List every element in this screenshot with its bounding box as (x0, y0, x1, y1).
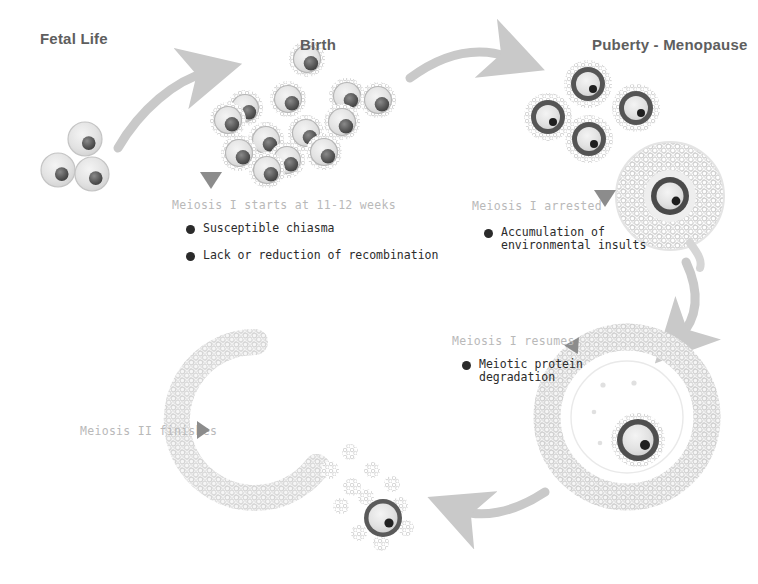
phase-label-meiosis-i-starts: Meiosis I starts at 11-12 weeks (172, 198, 396, 212)
bullet-susceptible-chiasma: Susceptible chiasma (186, 222, 335, 235)
bullet-lack-or-reduction-of-recombination: Lack or reduction of recombination (186, 249, 438, 262)
bullet-meiotic-protein-degradation: Meiotic protein degradation (462, 358, 583, 383)
arrow-fetal-to-birth (118, 72, 208, 148)
primordial-follicle-spiky (306, 134, 342, 170)
primordial-follicle (41, 153, 75, 187)
ruptured-follicle-cumulus-oocyte (177, 342, 414, 551)
arrow-puberty-to-graafian (679, 262, 695, 338)
primordial-follicle-spiky (324, 104, 360, 140)
arrow-birth-to-puberty (410, 52, 512, 78)
bullet-dot-icon (186, 225, 195, 234)
triangle-down-icon-meiosis-i-starts (200, 172, 222, 189)
primordial-follicle-spiky (270, 81, 306, 117)
bullet-label: Meiotic protein degradation (479, 358, 583, 383)
bullet-label: Lack or reduction of recombination (203, 249, 438, 262)
phase-label-meiosis-i-resumes: Meiosis I resumes (452, 334, 575, 348)
primary-follicle (565, 115, 613, 163)
primordial-follicle-cluster-birth (210, 41, 396, 188)
primordial-follicle-cluster-fetal (41, 122, 109, 191)
triangle-right-icon-meiosis-ii-finishes (197, 421, 210, 439)
bullet-label: Susceptible chiasma (203, 222, 335, 235)
oogenesis-diagram: Fetal Life Birth Puberty - Menopause Mei… (0, 0, 758, 584)
primordial-follicle-spiky (210, 102, 246, 138)
primary-follicle-cluster (524, 60, 660, 163)
primary-follicle (612, 84, 660, 132)
primary-follicle (524, 93, 572, 141)
bullet-label: Accumulation of environmental insults (501, 226, 646, 251)
phase-label-meiosis-i-arrested: Meiosis I arrested (472, 199, 602, 213)
stage-heading-birth: Birth (300, 36, 336, 53)
primordial-follicle-spiky (360, 82, 396, 118)
stage-heading-puberty-menopause: Puberty - Menopause (592, 36, 748, 53)
bullet-accumulation-of-environmental-insults: Accumulation of environmental insults (484, 226, 646, 251)
arrow-graafian-to-ovulated (460, 492, 545, 514)
primordial-follicle (68, 122, 102, 156)
bullet-dot-icon (186, 252, 195, 261)
primary-follicle (564, 60, 612, 108)
bullet-dot-icon (462, 361, 471, 370)
primordial-follicle-spiky (249, 152, 285, 188)
bullet-dot-icon (484, 229, 493, 238)
diagram-vector-layer (0, 0, 758, 584)
primordial-follicle (75, 157, 109, 191)
stage-heading-fetal-life: Fetal Life (40, 30, 108, 47)
